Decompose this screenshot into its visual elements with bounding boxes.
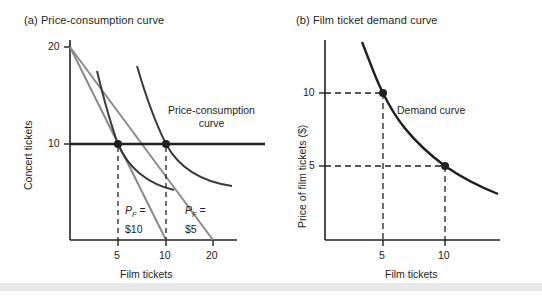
pf-low-equals: = [197,204,206,216]
panel-b-xlabel-5: 5 [379,249,385,261]
panel-b-xlabel-10: 10 [438,249,450,261]
price-consumption-curve-label: Price-consumption curve [168,104,255,130]
panel-b-title: (b) Film ticket demand curve [296,14,438,26]
optimum-point-pf5 [162,140,170,148]
panel-b-ylabel-10: 10 [303,86,315,98]
panel-b-y-axis-title: Price of film tickets ($) [296,125,308,228]
panel-a-ylabel-20: 20 [48,40,60,52]
panel-a-xlabel-10: 10 [159,249,171,261]
panel-a-x-axis-title: Film tickets [120,268,173,280]
panel-b-ylabel-5: 5 [309,159,315,171]
figure-root: (a) Price-consumption curve [0,0,542,298]
pf-high-value: $10 [125,223,143,235]
pf-low-symbol: P [185,204,192,216]
demand-point-5-10 [379,89,387,97]
panel-b-axes [319,40,500,246]
panel-a-xlabel-20: 20 [206,249,218,261]
pcc-label-line1: Price-consumption [168,104,255,116]
panel-b-x-axis-title: Film tickets [385,268,438,280]
pf-high-equals: = [137,204,146,216]
figure-canvas [0,0,542,298]
demand-curve-label: Demand curve [397,104,465,117]
pf-low-value: $5 [185,223,197,235]
panel-a-ylabel-10: 10 [48,137,60,149]
panel-a-xlabel-5: 5 [114,249,120,261]
pf-high-annotation: PF = $10 [125,203,146,236]
pf-high-symbol: P [125,204,132,216]
pf-low-annotation: PF = $5 [185,203,206,236]
pcc-label-line2: curve [199,117,225,129]
demand-point-10-5 [441,162,449,170]
footer-band [0,283,542,291]
panel-a-y-axis-title: Concert tickets [22,121,34,190]
optimum-point-pf10 [114,140,122,148]
